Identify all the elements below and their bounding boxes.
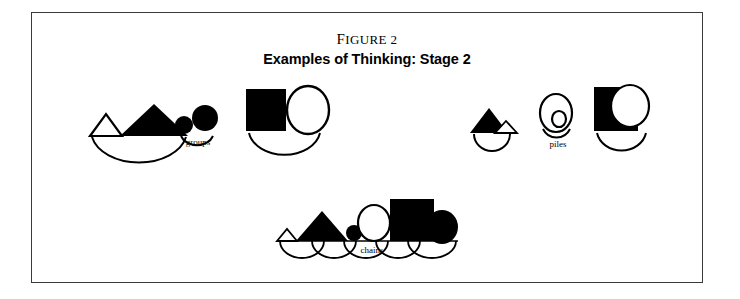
triangle-outlined-small (90, 114, 122, 136)
pile-arc (474, 134, 510, 151)
piles-square-circle-pile (588, 81, 668, 155)
circle-filled-small (175, 116, 193, 134)
pile-arc (543, 129, 570, 137)
chain-triangle-filled-large (296, 211, 348, 241)
cluster-label-groups: groups (170, 137, 226, 147)
chains-chain (272, 175, 472, 255)
cluster-label-chains: chains (332, 245, 412, 255)
figure-title: Examples of Thinking: Stage 2 (32, 51, 702, 68)
pile-arc (597, 133, 646, 151)
figure-caption: FIGURE 2 Examples of Thinking: Stage 2 (32, 31, 702, 68)
square-filled-large (246, 89, 286, 131)
circle-outlined-large (287, 86, 329, 134)
figure-number-value: 2 (391, 32, 398, 47)
piles-triangle-pile (464, 91, 524, 151)
group-arc (249, 133, 320, 155)
cluster-label-piles: piles (530, 139, 586, 149)
figure-number-line: FIGURE 2 (32, 31, 702, 48)
chain-arc (280, 241, 324, 258)
chain-square-filled-large (390, 199, 434, 241)
figure-root: FIGURE 2 Examples of Thinking: Stage 2 g… (0, 0, 740, 299)
chain-circle-filled-large (426, 210, 458, 244)
figure-border-frame: FIGURE 2 Examples of Thinking: Stage 2 g… (31, 12, 703, 283)
circle-outlined-small (552, 111, 566, 127)
circle-outlined-large (611, 85, 649, 127)
circle-filled-medium (192, 105, 218, 131)
chain-circle-outlined-large (358, 205, 390, 241)
groups-square-circle-group (240, 83, 340, 155)
chain-arc (408, 241, 456, 258)
chain-triangle-outlined-small (277, 229, 297, 241)
figure-number-lead: F (336, 31, 345, 47)
figure-number-rest: IGURE (345, 32, 387, 47)
